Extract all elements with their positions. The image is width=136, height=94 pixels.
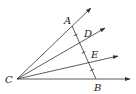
point-label-d: D bbox=[83, 28, 92, 39]
ray-ce bbox=[17, 56, 118, 79]
point-label-b: B bbox=[93, 82, 101, 93]
point-label-c: C bbox=[5, 74, 13, 85]
point-label-e: E bbox=[90, 49, 99, 60]
diagram-svg: C A D E B bbox=[0, 0, 136, 94]
point-label-a: A bbox=[63, 15, 71, 26]
geometry-diagram: C A D E B bbox=[0, 0, 136, 94]
